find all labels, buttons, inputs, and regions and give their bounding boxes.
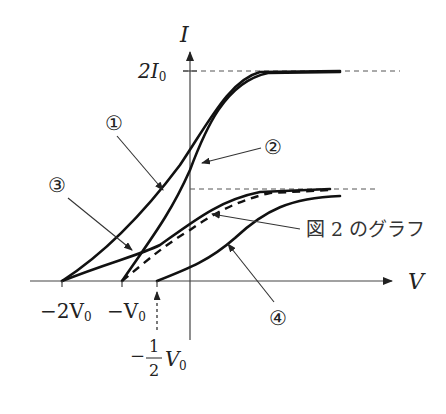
callout-2-arrow: [202, 148, 261, 163]
curve-2: [122, 72, 340, 281]
svg-text:1: 1: [149, 337, 159, 356]
svg-text:−: −: [130, 345, 145, 366]
x-ticks: [62, 281, 157, 287]
x-axis-label: V: [408, 269, 426, 294]
svg-text:0: 0: [179, 359, 187, 373]
curve-1: [62, 71, 340, 281]
reference-curve-label: 図 2 のグラフ: [306, 218, 425, 240]
curve-label-3: ③: [48, 173, 66, 197]
callout-4-arrow: [228, 244, 274, 302]
curves: [62, 71, 340, 281]
half-v0-label: − 1 2 V 0: [130, 337, 187, 380]
x-tick-minus-V0: −V0: [107, 299, 146, 324]
y-axis-label: I: [179, 22, 190, 47]
callout-3-arrow: [68, 198, 132, 250]
curve-label-1: ①: [105, 111, 123, 135]
x-tick-minus-2V0: −2V0: [40, 299, 92, 324]
callout-ref-arrow: [212, 214, 300, 229]
callout-1-arrow: [117, 136, 163, 190]
iv-characteristic-diagram: I V 2I0 −2V0 −V0 − 1 2 V 0: [0, 0, 446, 414]
curve-label-4: ④: [269, 306, 287, 330]
2I0-label: 2I0: [137, 59, 166, 84]
curve-label-2: ②: [264, 135, 282, 159]
svg-text:2: 2: [149, 361, 159, 380]
